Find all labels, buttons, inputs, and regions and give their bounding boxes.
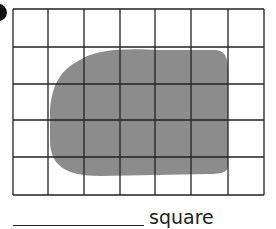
answer-blank[interactable] (13, 225, 144, 226)
grid-diagram (0, 0, 276, 229)
unit-label: square (149, 205, 214, 229)
